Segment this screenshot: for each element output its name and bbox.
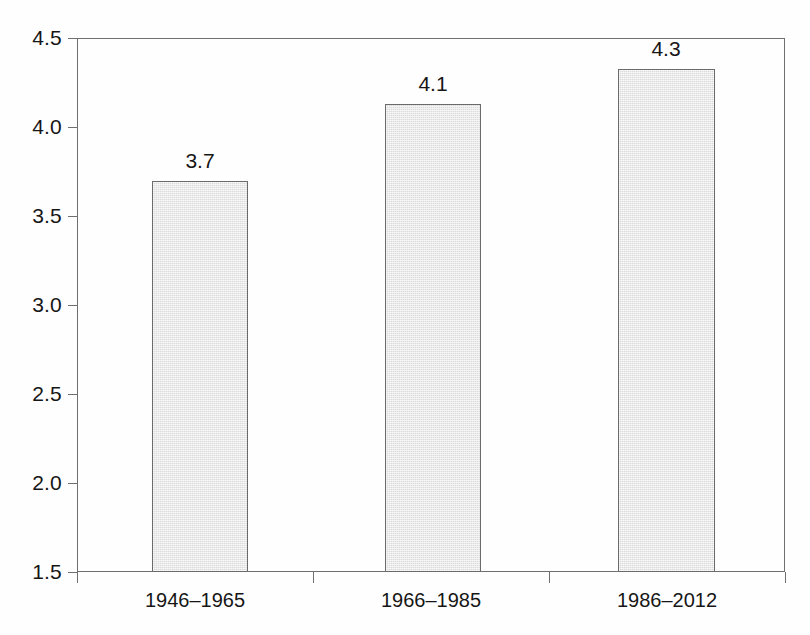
y-axis-tick-mark <box>68 127 77 128</box>
y-axis-tick-label: 4.5 <box>6 27 62 48</box>
bar-1946-1965[interactable] <box>152 181 248 572</box>
x-axis-tick-mark <box>549 572 550 583</box>
bar-1986-2012[interactable] <box>618 69 715 572</box>
x-axis-tick-label: 1966–1985 <box>313 588 549 612</box>
x-axis-tick-label: 1946–1965 <box>77 588 313 612</box>
x-axis-tick-mark <box>313 572 314 583</box>
y-axis-tick-label: 1.5 <box>6 561 62 582</box>
y-axis-tick-mark <box>68 483 77 484</box>
y-axis-tick-mark <box>68 38 77 39</box>
y-axis-tick-label: 2.0 <box>6 472 62 493</box>
y-axis-tick-label: 3.0 <box>6 294 62 315</box>
y-axis-tick-label: 3.5 <box>6 205 62 226</box>
bar-value-label: 4.3 <box>616 38 716 60</box>
y-axis-tick-mark <box>68 305 77 306</box>
x-axis-tick-label: 1986–2012 <box>549 588 785 612</box>
y-axis-tick-mark <box>68 216 77 217</box>
y-axis-tick-mark <box>68 572 77 573</box>
bar-chart: 4.5 4.0 3.5 3.0 2.5 2.0 1.5 3.7 4.1 4.3 … <box>0 0 810 635</box>
bar-value-label: 3.7 <box>150 150 250 172</box>
x-axis-tick-mark <box>77 572 78 583</box>
y-axis-tick-label: 4.0 <box>6 116 62 137</box>
y-axis-tick-mark <box>68 394 77 395</box>
x-axis-tick-mark <box>785 572 786 583</box>
bar-1966-1985[interactable] <box>385 104 481 572</box>
bar-value-label: 4.1 <box>383 73 483 95</box>
y-axis-tick-label: 2.5 <box>6 383 62 404</box>
